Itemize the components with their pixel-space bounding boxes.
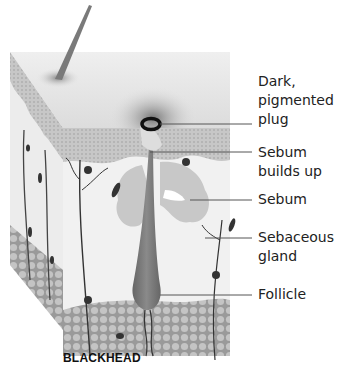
label-follicle: Follicle: [258, 285, 306, 304]
label-line: builds up: [258, 162, 322, 181]
label-line: Dark,: [258, 72, 334, 91]
diagram-title: BLACKHEAD: [63, 351, 141, 365]
label-line: pigmented: [258, 91, 334, 110]
label-line: Follicle: [258, 285, 306, 304]
label-sebaceous-gland: Sebaceous gland: [258, 228, 334, 266]
label-sebum-builds-up: Sebum builds up: [258, 143, 322, 181]
label-line: Sebum: [258, 143, 322, 162]
label-line: Sebum: [258, 190, 307, 209]
label-pigmented-plug: Dark, pigmented plug: [258, 72, 334, 129]
label-line: Sebaceous: [258, 228, 334, 247]
label-line: plug: [258, 110, 334, 129]
label-line: gland: [258, 247, 334, 266]
front-face: [63, 125, 237, 360]
label-sebum: Sebum: [258, 190, 307, 209]
